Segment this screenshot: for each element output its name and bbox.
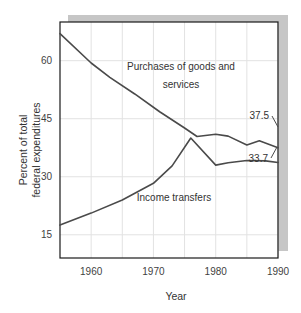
x-axis-title: Year <box>165 290 187 302</box>
y-axis-title-line1: Percent of total <box>17 115 29 186</box>
series-label-purchases-line1: Purchases of goods and <box>127 61 235 72</box>
x-axis-tick-labels: 1960197019801990 <box>80 266 290 277</box>
x-tick-label: 1970 <box>142 266 165 277</box>
y-tick-label: 45 <box>41 113 53 124</box>
value-label-purchases-end: 37.5 <box>250 110 270 121</box>
y-tick-label: 30 <box>41 171 53 182</box>
series-label-purchases-line2: services <box>163 79 200 90</box>
y-axis-tick-labels: 15304560 <box>41 55 53 240</box>
series-label-income-transfers: Income transfers <box>137 192 211 203</box>
chart-figure: 15304560 1960197019801990 Percent of tot… <box>0 0 301 313</box>
x-tick-label: 1990 <box>267 266 290 277</box>
plot-background <box>60 22 278 258</box>
value-label-income-transfers-end: 33.7 <box>249 153 269 164</box>
x-tick-label: 1960 <box>80 266 103 277</box>
y-axis-title-line2: federal expenditures <box>30 102 42 197</box>
line-chart: 15304560 1960197019801990 Percent of tot… <box>0 0 301 313</box>
x-tick-label: 1980 <box>205 266 228 277</box>
y-tick-label: 15 <box>41 229 53 240</box>
y-tick-label: 60 <box>41 55 53 66</box>
